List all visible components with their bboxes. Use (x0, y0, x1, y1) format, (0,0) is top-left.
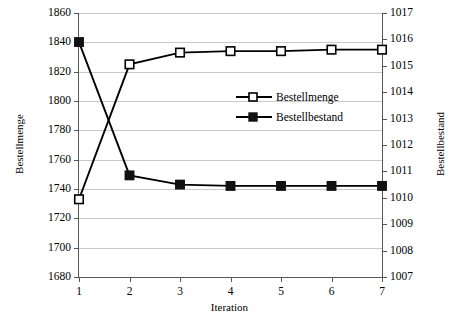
legend-key-filled-square-icon (235, 110, 273, 124)
y-axis-right-tick-label: 1012 (390, 139, 413, 151)
y-axis-right-tick-mark (382, 224, 387, 225)
y-axis-right-tick-mark (382, 251, 387, 252)
y-axis-left-tick-label: 1740 (48, 183, 71, 195)
plot-area: 1680170017201740176017801800182018401860… (78, 13, 383, 277)
x-axis-tick-label: 1 (64, 277, 94, 297)
y-axis-right-tick-label: 1013 (390, 113, 413, 125)
y-axis-right-tick-mark (382, 198, 387, 199)
data-point-marker (327, 182, 336, 191)
x-axis-tick-label: 6 (317, 277, 347, 297)
y-axis-left-tick-label: 1780 (48, 124, 71, 136)
legend-item-bestellbestand: Bestellbestand (235, 107, 343, 127)
y-axis-right-tick-label: 1008 (390, 245, 413, 257)
y-axis-left-tick-label: 1720 (48, 212, 71, 224)
y-axis-right-tick-label: 1009 (390, 218, 413, 230)
y-axis-right-tick-mark (382, 171, 387, 172)
y-axis-right-tick-mark (382, 66, 387, 67)
y-axis-right-tick-mark (382, 119, 387, 120)
data-point-marker (75, 38, 84, 47)
data-point-marker (226, 47, 235, 56)
data-point-marker (176, 180, 185, 189)
data-point-marker (125, 171, 134, 180)
y-axis-right-tick-label: 1014 (390, 86, 413, 98)
data-point-marker (378, 182, 387, 191)
y-axis-right-tick-label: 1010 (390, 192, 413, 204)
data-point-marker (378, 45, 387, 54)
chart-figure: Bestellmenge Bestellbestand Iteration 16… (0, 0, 458, 324)
y-axis-title-right: Bestellbestand (434, 84, 446, 204)
y-axis-right-tick-label: 1017 (390, 7, 413, 19)
x-axis-tick-label: 5 (266, 277, 296, 297)
x-axis-tick-label: 2 (115, 277, 145, 297)
series-layer (79, 13, 382, 277)
y-axis-left-tick-label: 1820 (48, 66, 71, 78)
chart-legend: Bestellmenge Bestellbestand (231, 85, 347, 129)
data-point-marker (125, 60, 134, 68)
y-axis-right-tick-label: 1015 (390, 60, 413, 72)
y-axis-left-tick-label: 1800 (48, 95, 71, 107)
x-axis-title: Iteration (78, 301, 381, 313)
legend-key-open-square-icon (235, 90, 273, 104)
x-axis-tick-label: 4 (216, 277, 246, 297)
x-axis-tick-label: 7 (367, 277, 397, 297)
y-axis-right-tick-mark (382, 92, 387, 93)
data-point-marker (277, 182, 286, 191)
data-point-marker (75, 195, 84, 204)
data-point-marker (327, 45, 336, 54)
y-axis-left-tick-label: 1700 (48, 242, 71, 254)
y-axis-left-tick-label: 1840 (48, 36, 71, 48)
data-point-marker (226, 182, 235, 191)
y-axis-right-tick-label: 1011 (390, 165, 413, 177)
y-axis-right-tick-mark (382, 145, 387, 146)
y-axis-title-left: Bestellmenge (13, 84, 25, 204)
legend-item-bestellmenge: Bestellmenge (235, 87, 343, 107)
legend-label: Bestellbestand (276, 111, 343, 123)
y-axis-right-tick-label: 1016 (390, 33, 413, 45)
y-axis-right-tick-mark (382, 13, 387, 14)
data-point-marker (277, 47, 286, 56)
legend-label: Bestellmenge (276, 91, 339, 103)
y-axis-right-tick-mark (382, 39, 387, 40)
data-point-marker (176, 48, 185, 57)
y-axis-left-tick-label: 1760 (48, 154, 71, 166)
y-axis-left-tick-label: 1860 (48, 7, 71, 19)
x-axis-tick-label: 3 (165, 277, 195, 297)
